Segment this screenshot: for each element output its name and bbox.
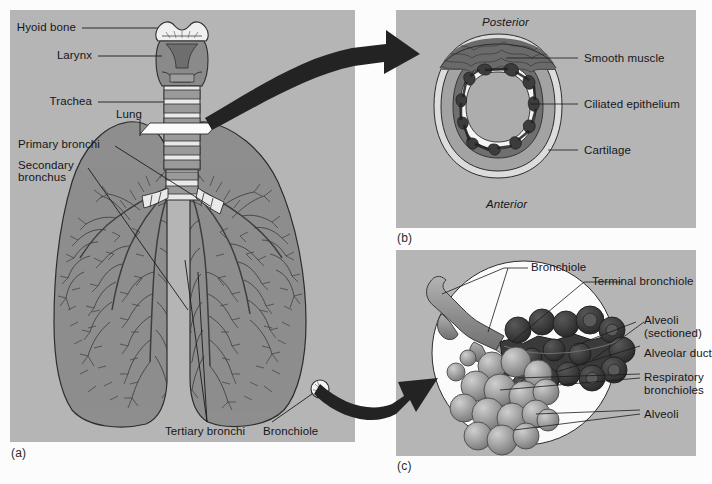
panel-b-illustration — [396, 10, 696, 228]
bronchiole-marker — [311, 380, 329, 398]
caption-b: (b) — [397, 231, 412, 245]
label-larynx: Larynx — [24, 49, 92, 62]
label-alveoli-sectioned-line1: Alveoli — [644, 314, 679, 327]
label-alveoli: Alveoli — [644, 408, 679, 421]
label-alveolar-duct: Alveolar duct — [644, 347, 712, 360]
label-ciliated-epithelium: Ciliated epithelium — [584, 98, 680, 111]
panel-c-alveoli: Bronchiole Terminal bronchiole Alveoli (… — [396, 250, 696, 456]
bronchus-rings — [434, 34, 562, 178]
label-bronchiole-c: Bronchiole — [531, 261, 586, 274]
label-trachea: Trachea — [24, 95, 92, 108]
label-posterior: Posterior — [482, 16, 529, 29]
label-respiratory-bronchioles-line2: bronchioles — [644, 384, 704, 397]
label-alveoli-sectioned-line2: (sectioned) — [644, 327, 702, 340]
label-lung: Lung — [116, 108, 142, 121]
label-primary-bronchi: Primary bronchi — [18, 138, 100, 151]
label-hyoid-bone: Hyoid bone — [14, 21, 76, 34]
label-tertiary-bronchi: Tertiary bronchi — [165, 425, 245, 438]
label-cartilage: Cartilage — [584, 144, 631, 157]
label-bronchiole-a: Bronchiole — [263, 425, 318, 438]
panel-a-lungs: Hyoid bone Larynx Trachea Lung Primary b… — [10, 10, 355, 442]
label-anterior: Anterior — [486, 198, 527, 211]
panel-a-illustration — [10, 10, 355, 442]
label-secondary-bronchus-line1: Secondary — [18, 159, 74, 172]
cut-plane-b — [140, 123, 218, 134]
caption-a: (a) — [11, 446, 26, 460]
panel-b-bronchus-cross-section: Posterior Anterior Smooth muscle Ciliate… — [396, 10, 696, 228]
label-respiratory-bronchioles-line1: Respiratory — [644, 371, 704, 384]
label-smooth-muscle: Smooth muscle — [584, 52, 665, 65]
label-terminal-bronchiole: Terminal bronchiole — [592, 275, 694, 288]
label-secondary-bronchus-line2: bronchus — [18, 171, 66, 184]
caption-c: (c) — [397, 459, 412, 473]
